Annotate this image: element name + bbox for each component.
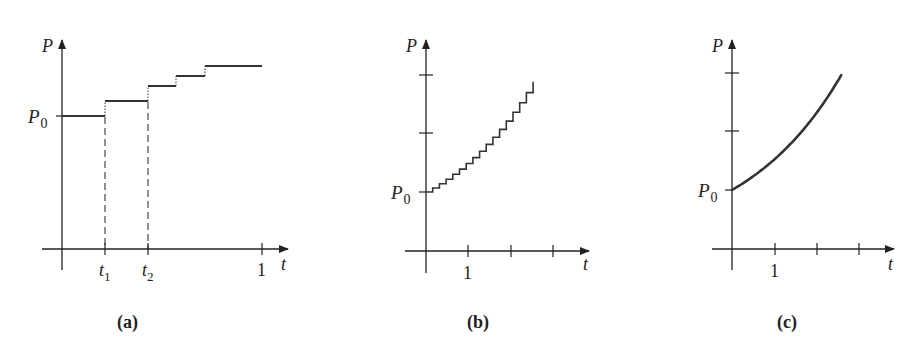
tick-label-1: 1: [463, 263, 472, 283]
y-axis-label: P: [41, 36, 53, 56]
exponential-curve: [732, 75, 841, 190]
staircase-curve: [426, 82, 533, 192]
caption-b: (b): [467, 312, 489, 333]
p0-label: P0: [27, 106, 48, 131]
y-axis-label: P: [405, 36, 417, 56]
t1-label: t1: [99, 260, 111, 284]
p0-label: P0: [697, 180, 718, 205]
panel-a: P t P0 t1 t2 1 (a): [27, 36, 288, 333]
step-risers: [105, 66, 205, 116]
x-axis-label: t: [281, 254, 287, 274]
tick-label-1: 1: [770, 261, 779, 281]
caption-c: (c): [777, 312, 797, 333]
tick-label-1: 1: [257, 260, 266, 280]
x-axis-label: t: [583, 254, 589, 274]
panel-b: P t P0 1 (b): [390, 36, 589, 333]
panel-c: P t P0 1 (c): [697, 36, 894, 333]
caption-a: (a): [117, 312, 138, 333]
t2-label: t2: [142, 260, 154, 284]
staircase-curve: [62, 66, 262, 116]
figure-canvas: P t P0 t1 t2 1 (a) P t P0 1 (b) P t: [0, 0, 911, 349]
x-axis-label: t: [888, 254, 894, 274]
y-axis-label: P: [711, 36, 723, 56]
p0-label: P0: [390, 182, 411, 207]
